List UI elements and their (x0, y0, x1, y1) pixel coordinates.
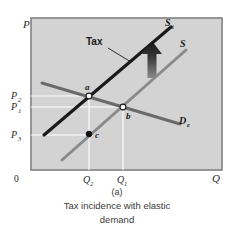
caption-line-1: Tax incidence with elastic (0, 198, 234, 212)
y-tick-p1-sub: 1 (18, 107, 21, 114)
figure-caption: (a) Tax incidence with elastic demand (0, 186, 234, 226)
y-tick-p3-sub: 3 (17, 135, 22, 142)
y-tick-p3-label: P (10, 129, 17, 140)
point-c-marker (86, 131, 92, 137)
curve-label-st-text: S (165, 17, 171, 28)
point-a-label: a (85, 82, 90, 92)
caption-line-2: demand (0, 212, 234, 226)
y-tick-p2-label: P (10, 90, 17, 101)
y-tick-p2-sub: 2 (18, 96, 22, 103)
point-b-label: b (126, 111, 131, 121)
tax-annotation-label: Tax (86, 36, 103, 47)
figure-container: P Q 0 P 2 P 1 P 3 Q 2 Q 1 (0, 0, 234, 232)
curve-label-de-text: D (178, 115, 186, 126)
point-b-marker (120, 104, 126, 110)
y-axis-label: P (22, 18, 30, 30)
panel-label: (a) (0, 186, 234, 198)
curve-label-de-sub: e (187, 122, 190, 128)
origin-label: 0 (14, 174, 19, 184)
y-tick-p1-label: P (10, 101, 17, 112)
point-c-label: c (95, 130, 99, 140)
x-axis-label: Q (212, 172, 220, 184)
point-a-marker (86, 93, 92, 99)
curve-label-s-text: S (180, 38, 186, 49)
y-tick-p3: P 3 (10, 129, 22, 142)
plot-texture (31, 18, 222, 170)
curve-label-s: S (180, 38, 186, 49)
